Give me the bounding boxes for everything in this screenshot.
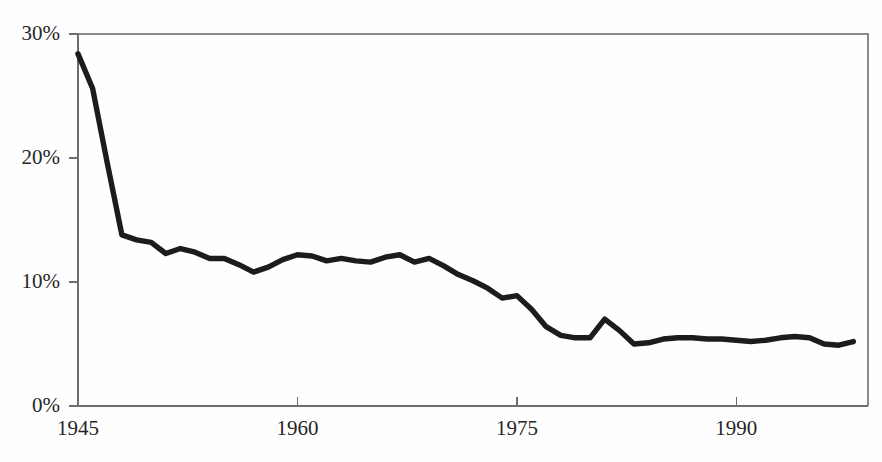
y-tick-group: 0%10%20%30% [22,21,79,417]
x-tick-label: 1960 [276,416,318,440]
x-tick-label: 1975 [496,416,538,440]
y-tick-label: 30% [22,21,61,45]
line-chart-figure: 0%10%20%30% 1945196019751990 [0,0,882,462]
y-tick-label: 10% [22,269,61,293]
chart-canvas: 0%10%20%30% 1945196019751990 [0,0,882,462]
y-tick-label: 20% [22,145,61,169]
x-tick-label: 1990 [715,416,757,440]
x-tick-label: 1945 [57,416,99,440]
y-tick-label: 0% [32,393,60,417]
data-series-line [78,54,853,345]
x-tick-group: 1945196019751990 [57,397,757,440]
plot-frame-top-right [78,34,868,406]
